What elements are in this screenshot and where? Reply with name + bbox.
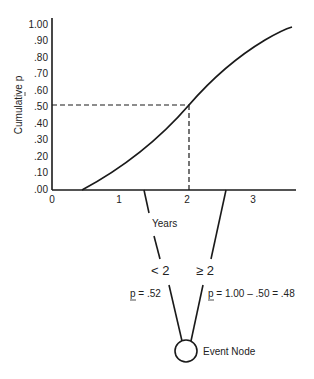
branch-right-condition: ≥ 2 [196,263,214,278]
x-tick: 1 [116,194,122,205]
x-tick: 3 [250,194,256,205]
branch-right-upper [211,190,226,259]
branch-left-upper [144,190,149,213]
y-tick: .60 [34,85,48,96]
y-tick: .00 [34,184,48,195]
y-tick-labels: .00 .10 .20 .30 .40 .50 .60 .70 .80 .90 … [29,19,49,195]
cumulative-probability-chart: .00 .10 .20 .30 .40 .50 .60 .70 .80 .90 … [0,0,314,379]
cumulative-curve [82,27,292,190]
event-node-circle [175,340,197,362]
x-tick: 2 [184,194,190,205]
y-tick: .10 [34,167,48,178]
event-node-label: Event Node [203,346,256,357]
branch-right-to-node [191,285,203,341]
branch-left-lower [154,236,160,259]
y-axis-title: Cumulative p [13,75,24,134]
y-tick: .70 [34,68,48,79]
branch-left-condition: < 2 [151,263,169,278]
y-tick: .50 [34,101,48,112]
branch-left-to-node [169,285,182,341]
y-tick: .90 [34,35,48,46]
y-tick: .20 [34,151,48,162]
branch-left-probability: p = .52 [130,288,161,299]
y-tick: .80 [34,52,48,63]
y-tick: 1.00 [29,19,49,30]
x-axis-title: Years [152,218,177,229]
branch-right-probability: p = 1.00 – .50 = .48 [208,288,295,299]
x-tick: 0 [49,194,55,205]
y-tick: .30 [34,134,48,145]
y-tick: .40 [34,118,48,129]
